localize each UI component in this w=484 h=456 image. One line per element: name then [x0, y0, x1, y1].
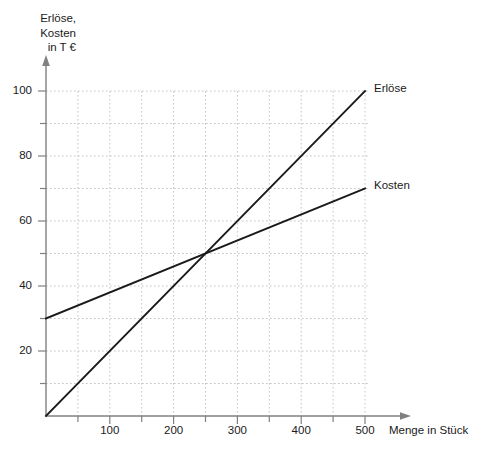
y-tick-label-20: 20 [0, 344, 32, 358]
y-tick-label-80: 80 [0, 149, 32, 163]
x-tick-label-200: 200 [154, 424, 194, 438]
series-label-kosten: Kosten [374, 179, 410, 193]
y-axis-title-line-3: in T € [14, 40, 76, 55]
x-tick-label-100: 100 [90, 424, 130, 438]
y-axis-title-line-2: Kosten [14, 26, 76, 41]
chart-canvas [0, 0, 484, 456]
y-axis-title-line-1: Erlöse, [14, 11, 76, 26]
x-axis [46, 412, 411, 420]
y-tick-label-60: 60 [0, 214, 32, 228]
y-axis [42, 55, 50, 416]
y-tick-label-40: 40 [0, 279, 32, 293]
x-tick-label-300: 300 [217, 424, 257, 438]
x-axis-title: Menge in Stück [389, 424, 468, 438]
x-tick-label-500: 500 [345, 424, 385, 438]
vertical-gridlines [78, 91, 365, 416]
y-axis-title: Erlöse, Kosten in T € [14, 11, 76, 55]
break-even-chart: Erlöse, Kosten in T € 100 80 60 40 20 10… [0, 0, 484, 456]
x-axis-ticks [78, 416, 365, 424]
y-axis-ticks [38, 91, 46, 384]
horizontal-gridlines [46, 91, 368, 384]
x-tick-label-400: 400 [281, 424, 321, 438]
cut-off-caption [26, 447, 366, 456]
series-label-erloese: Erlöse [374, 82, 407, 96]
y-tick-label-100: 100 [0, 84, 32, 98]
